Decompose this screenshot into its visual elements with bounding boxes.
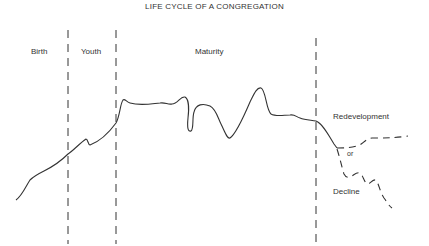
decline-curve (337, 149, 392, 208)
life-cycle-diagram (0, 0, 429, 246)
life-cycle-curve (16, 88, 337, 200)
redevelopment-curve (337, 136, 408, 148)
